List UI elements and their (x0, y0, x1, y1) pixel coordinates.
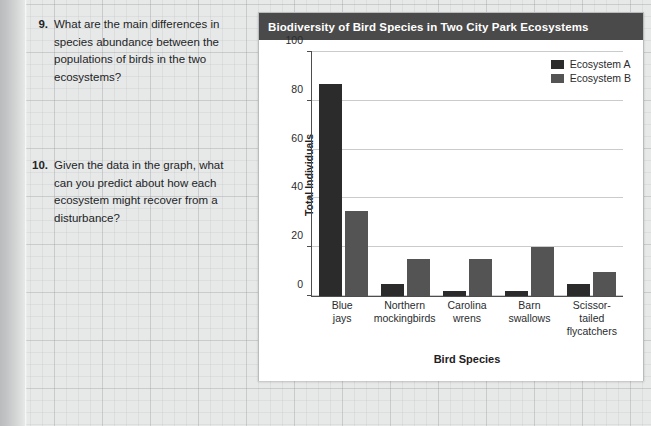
y-tick-label-100: 100 (285, 34, 303, 46)
bar-group (499, 52, 561, 296)
question-number-10: 10. (30, 157, 54, 175)
x-axis-tick-labels: BluejaysNorthernmockingbirdsCarolinawren… (311, 299, 623, 338)
chart-card: Biodiversity of Bird Species in Two City… (258, 12, 644, 381)
bar-group (312, 52, 374, 296)
x-tick-label-line: wrens (436, 312, 498, 325)
workbook-page: 9. What are the main differences in spec… (0, 0, 651, 426)
bar-group (561, 52, 623, 296)
bar-group (374, 52, 436, 296)
bar-ecosystem-a (443, 291, 466, 296)
question-text-9: What are the main differences in species… (54, 16, 245, 86)
x-tick-label-line: jays (311, 312, 373, 325)
x-tick-label: Barnswallows (498, 299, 560, 338)
questions-column: 9. What are the main differences in spec… (30, 16, 245, 227)
x-tick-label: Northernmockingbirds (373, 299, 435, 338)
chart-body: Ecosystem AEcosystem B Total Individuals… (259, 40, 643, 381)
bars-layer (312, 52, 623, 296)
plot-area: Total Individuals 020406080100 (311, 52, 623, 297)
y-tick-label-40: 40 (291, 180, 303, 192)
bar-ecosystem-a (567, 284, 590, 296)
x-tick-label-line: mockingbirds (373, 312, 435, 325)
bar-ecosystem-b (345, 211, 368, 296)
x-axis-title: Bird Species (311, 353, 623, 365)
x-tick-label-line: swallows (498, 312, 560, 325)
bar-ecosystem-b (469, 259, 492, 296)
y-tick-label-80: 80 (291, 83, 303, 95)
x-tick-label-line: Northern (373, 299, 435, 312)
question-number-9: 9. (30, 16, 54, 34)
y-tick-label-20: 20 (291, 229, 303, 241)
bar-ecosystem-b (593, 272, 616, 296)
question-item-9: 9. What are the main differences in spec… (30, 16, 245, 86)
x-tick-label: Bluejays (311, 299, 373, 338)
book-spine-shadow (0, 0, 26, 426)
bar-ecosystem-a (319, 84, 342, 296)
y-tick-label-60: 60 (291, 132, 303, 144)
chart-title: Biodiversity of Bird Species in Two City… (259, 13, 643, 40)
question-text-10: Given the data in the graph, what can yo… (54, 157, 245, 227)
x-tick-label-line: Carolina (436, 299, 498, 312)
x-tick-label: Scissor-tailedflycatchers (561, 299, 623, 338)
question-item-10: 10. Given the data in the graph, what ca… (30, 157, 245, 227)
x-tick-label-line: Scissor- (561, 299, 623, 312)
x-tick-label: Carolinawrens (436, 299, 498, 338)
x-tick-label-line: tailed (561, 312, 623, 325)
bar-ecosystem-b (531, 247, 554, 296)
x-tick-label-line: flycatchers (561, 325, 623, 338)
bar-ecosystem-a (381, 284, 404, 296)
bar-group (436, 52, 498, 296)
x-tick-label-line: Barn (498, 299, 560, 312)
bar-ecosystem-a (505, 291, 528, 296)
x-tick-label-line: Blue (311, 299, 373, 312)
bar-ecosystem-b (407, 259, 430, 296)
plot-frame: 020406080100 (311, 52, 623, 297)
y-tick-label-0: 0 (297, 278, 303, 290)
book-spine-highlight (25, 0, 27, 426)
